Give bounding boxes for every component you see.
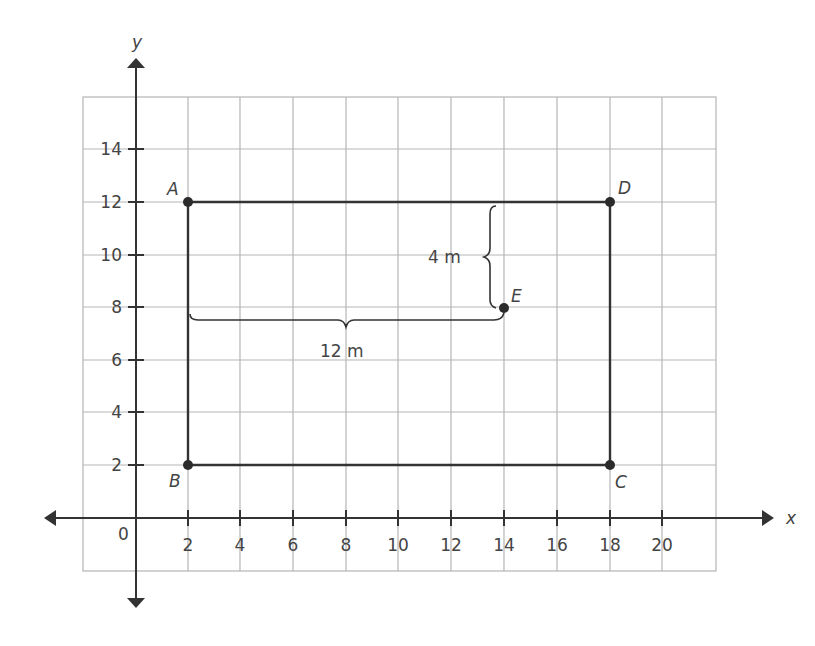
rectangle-abcd xyxy=(188,202,610,465)
x-tick-18: 18 xyxy=(599,535,621,555)
y-axis-label: y xyxy=(131,32,143,52)
point-c xyxy=(605,460,615,470)
arrow-down-icon xyxy=(127,598,145,608)
x-tick-20: 20 xyxy=(651,535,673,555)
label-c: C xyxy=(615,472,627,492)
arrow-left-icon xyxy=(44,510,56,526)
label-d: D xyxy=(618,178,631,198)
y-tick-8: 8 xyxy=(111,297,122,317)
x-tick-6: 6 xyxy=(288,535,299,555)
x-tick-16: 16 xyxy=(546,535,568,555)
coordinate-diagram: y x 0 2 4 6 8 10 12 14 16 18 20 2 4 6 8 … xyxy=(0,0,815,646)
point-d xyxy=(605,197,615,207)
x-tick-2: 2 xyxy=(183,535,194,555)
label-e: E xyxy=(511,286,522,306)
y-tick-12: 12 xyxy=(100,192,122,212)
label-a: A xyxy=(166,179,179,199)
arrow-right-icon xyxy=(762,510,774,526)
x-axis-label: x xyxy=(785,508,797,528)
y-tick-2: 2 xyxy=(111,455,122,475)
x-axis xyxy=(44,510,774,526)
arrow-up-icon xyxy=(127,58,145,68)
points xyxy=(183,197,615,470)
x-tick-12: 12 xyxy=(440,535,462,555)
dimension-label-12m: 12 m xyxy=(320,341,364,361)
x-tick-10: 10 xyxy=(387,535,409,555)
x-tick-4: 4 xyxy=(235,535,246,555)
point-b xyxy=(183,460,193,470)
point-a xyxy=(183,197,193,207)
point-e xyxy=(499,303,509,313)
y-tick-14: 14 xyxy=(100,139,122,159)
origin-label: 0 xyxy=(118,524,129,544)
grid xyxy=(83,97,716,571)
brace-vertical xyxy=(484,206,496,308)
label-b: B xyxy=(169,471,181,491)
y-tick-6: 6 xyxy=(111,350,122,370)
x-tick-labels: 2 4 6 8 10 12 14 16 18 20 xyxy=(183,535,673,555)
y-axis xyxy=(127,58,145,608)
y-tick-10: 10 xyxy=(100,245,122,265)
x-tick-14: 14 xyxy=(493,535,515,555)
x-tick-8: 8 xyxy=(341,535,352,555)
y-tick-4: 4 xyxy=(111,402,122,422)
brace-horizontal xyxy=(190,313,504,327)
dimension-label-4m: 4 m xyxy=(428,247,461,267)
